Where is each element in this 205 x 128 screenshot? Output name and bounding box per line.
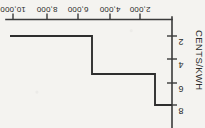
x-tick-label-10000: 10,000 — [0, 5, 26, 14]
y-axis-tick-labels: 2 4 6 8 — [178, 37, 183, 116]
chart-root: 10,000 8,000 6,000 4,000 2,000 2 4 6 8 C… — [0, 0, 205, 128]
y-axis-title: CENTS/KWH — [194, 30, 205, 91]
x-tick-label-4000: 4,000 — [99, 5, 120, 14]
x-tick-label-6000: 6,000 — [67, 5, 88, 14]
y-tick-label-8: 8 — [178, 106, 183, 116]
y-tick-label-2: 2 — [178, 37, 183, 47]
x-axis-tick-labels: 10,000 8,000 6,000 4,000 2,000 — [0, 5, 151, 14]
y-tick-label-4: 4 — [178, 60, 183, 70]
x-tick-label-2000: 2,000 — [129, 5, 150, 14]
step-series-line — [10, 36, 172, 105]
step-chart: 10,000 8,000 6,000 4,000 2,000 2 4 6 8 C… — [0, 0, 205, 128]
y-tick-label-6: 6 — [178, 84, 183, 94]
y-axis-ticks — [163, 36, 177, 105]
x-tick-label-8000: 8,000 — [36, 5, 57, 14]
